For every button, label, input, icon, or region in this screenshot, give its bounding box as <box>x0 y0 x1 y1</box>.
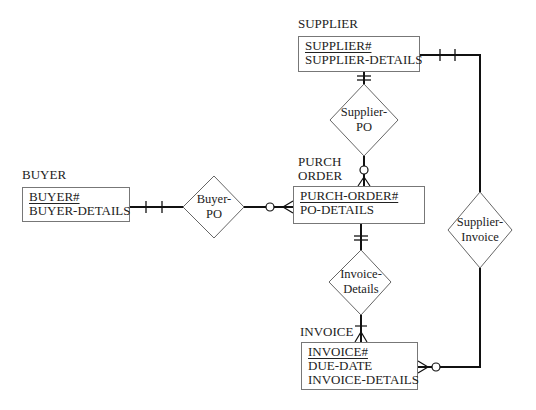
supplier-invoice-label-line2: Invoice <box>446 230 514 245</box>
buyer-po-label-line2: PO <box>183 207 245 222</box>
purch-order-entity-name-line2: ORDER <box>298 169 342 183</box>
purch-order-entity-box[interactable]: PURCH-ORDER# PO-DETAILS <box>293 186 425 224</box>
purch-order-entity-name-line1: PURCH <box>298 155 341 169</box>
buyer-entity-name: BUYER <box>22 168 66 182</box>
supplier-entity-name: SUPPLIER <box>298 17 358 31</box>
supplier-key-attribute: SUPPLIER# <box>305 39 413 53</box>
supplier-details-attribute: SUPPLIER-DETAILS <box>305 53 413 67</box>
invoice-entity-box[interactable]: INVOICE# DUE-DATE INVOICE-DETAILS <box>301 342 418 390</box>
invoice-details-label-line2: Details <box>329 282 393 297</box>
supplier-invoice-relationship[interactable]: Supplier- Invoice <box>446 215 514 245</box>
due-date-attribute: DUE-DATE <box>308 359 411 373</box>
buyer-po-relationship[interactable]: Buyer- PO <box>183 192 245 222</box>
invoice-details-label-line1: Invoice- <box>329 267 393 282</box>
invoice-details-attribute: INVOICE-DETAILS <box>308 373 411 387</box>
supplier-entity-box[interactable]: SUPPLIER# SUPPLIER-DETAILS <box>298 36 420 72</box>
purch-order-key-attribute: PURCH-ORDER# <box>300 189 418 203</box>
supplier-po-label-line2: PO <box>330 120 398 135</box>
invoice-details-relationship[interactable]: Invoice- Details <box>329 267 393 297</box>
buyer-details-attribute: BUYER-DETAILS <box>29 204 123 218</box>
supplier-po-relationship[interactable]: Supplier- PO <box>330 105 398 135</box>
buyer-entity-box[interactable]: BUYER# BUYER-DETAILS <box>22 187 130 222</box>
invoice-entity-name: INVOICE <box>300 325 353 339</box>
po-details-attribute: PO-DETAILS <box>300 203 418 217</box>
buyer-po-label-line1: Buyer- <box>183 192 245 207</box>
invoice-key-attribute: INVOICE# <box>308 345 411 359</box>
buyer-key-attribute: BUYER# <box>29 190 123 204</box>
supplier-invoice-label-line1: Supplier- <box>446 215 514 230</box>
supplier-po-label-line1: Supplier- <box>330 105 398 120</box>
